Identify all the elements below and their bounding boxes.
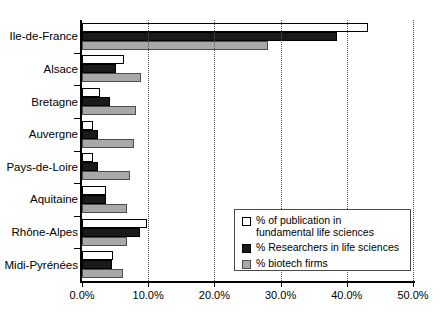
bar [82,97,110,106]
bar [82,228,140,237]
x-tick-label: 30.0% [251,289,311,301]
bar [82,139,134,148]
legend-label: % of publication in fundamental life sci… [256,215,374,238]
x-tick [148,283,149,287]
legend-label: % biotech firms [256,258,328,270]
category-label: Aquitaine [30,193,78,205]
bar [82,130,98,139]
legend-item: % Researchers in life sciences [242,242,404,254]
bar [82,23,368,32]
gridline [214,20,216,281]
y-tick [74,85,80,86]
bar [82,41,268,50]
bar [82,195,106,204]
category-label: Rhône-Alpes [12,226,78,238]
bar [82,64,116,73]
legend-label: % Researchers in life sciences [256,242,399,254]
y-tick [74,216,80,217]
category-label: Midi-Pyrénées [5,259,79,271]
bar [82,88,100,97]
x-tick [281,283,282,287]
bar [82,171,130,180]
bar [82,204,127,213]
x-tick [214,283,215,287]
legend-swatch-icon [242,260,251,269]
x-tick [413,283,414,287]
category-label: Pays-de-Loire [6,161,78,173]
bar [82,269,123,278]
bar [82,237,127,246]
bar-chart: 0.0%10.0%20.0%30.0%40.0%50.0% Ile-de-Fra… [0,0,442,326]
bar [82,162,98,171]
legend-swatch-icon [242,244,251,253]
x-tick-label: 40.0% [317,289,377,301]
x-tick-label: 0.0% [52,289,112,301]
y-tick [74,118,80,119]
bar [82,251,113,260]
bar [82,219,147,228]
y-tick [74,183,80,184]
bar [82,121,93,130]
bar [82,186,106,195]
y-tick [74,151,80,152]
category-label: Alsace [43,63,78,75]
legend-item: % biotech firms [242,258,404,270]
category-label: Ile-de-France [10,30,78,42]
x-tick-label: 50.0% [383,289,442,301]
legend-swatch-icon [242,217,251,226]
x-tick [347,283,348,287]
chart-legend: % of publication in fundamental life sci… [234,209,411,271]
bar [82,106,136,115]
gridline [148,20,150,281]
gridline [413,20,415,281]
bar [82,153,93,162]
y-tick [74,248,80,249]
y-tick [74,53,80,54]
x-tick-label: 10.0% [118,289,178,301]
category-label: Auvergne [29,128,78,140]
bar [82,32,337,41]
x-axis-line [80,281,415,283]
legend-item: % of publication in fundamental life sci… [242,215,404,238]
bar [82,260,112,269]
bar [82,73,141,82]
x-tick-label: 20.0% [184,289,244,301]
x-tick [82,283,83,287]
category-label: Bretagne [31,96,78,108]
bar [82,55,124,64]
